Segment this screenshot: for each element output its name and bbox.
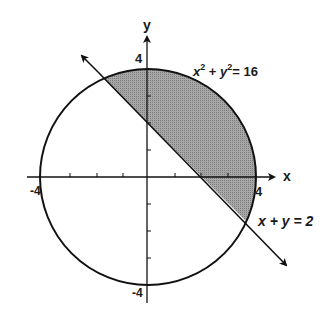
y-neg-tick-label: -4 (132, 286, 143, 300)
x-axis-label: x (283, 168, 291, 184)
x-pos-tick-label: 4 (255, 184, 263, 199)
y-axis-label: y (143, 17, 151, 33)
line-equation-label: x + y = 2 (257, 213, 313, 229)
line-curve (82, 56, 98, 72)
shaded-region (104, 69, 256, 221)
y-pos-tick-label: 4 (135, 51, 143, 66)
diagram-canvas: y x 4 4 -4 -4 x2 + y2= 16 x + y = 2 (0, 0, 332, 318)
x-neg-tick-label: -4 (30, 184, 41, 198)
circle-equation-label: x2 + y2= 16 (192, 62, 258, 79)
